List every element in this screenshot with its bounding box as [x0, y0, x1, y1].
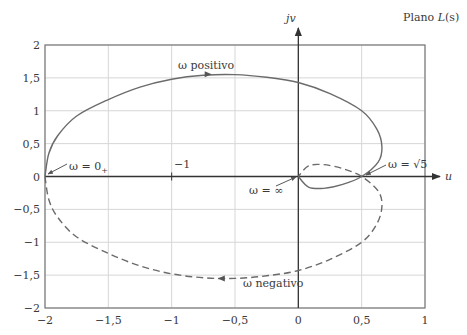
plane-title: Plano L(s) [403, 11, 459, 24]
nyquist-plot: −2−1,5−1−0,500,5121,510,50−0,5−1−1,5−2 P… [0, 0, 467, 335]
direction-arrow-negative [218, 275, 225, 281]
u-axis-label: u [445, 170, 452, 183]
annotations: Plano L(s) jv u ω positivo ω negativo ω … [69, 11, 459, 290]
y-tick-label: 2 [33, 39, 40, 52]
omega-infinity-arrow [276, 177, 296, 186]
y-tick-label: −2 [24, 302, 40, 315]
x-tick-label: −1,5 [95, 314, 122, 327]
y-tick-label: −1 [24, 236, 40, 249]
omega-negative-curve [45, 164, 382, 278]
minus-one-label: −1 [174, 158, 190, 171]
x-tick-label: −2 [37, 314, 53, 327]
x-tick-label: 0 [295, 314, 302, 327]
y-tick-label: 0 [33, 171, 40, 184]
x-tick-label: −0,5 [222, 314, 249, 327]
x-tick-label: 1 [422, 314, 429, 327]
omega-sqrt5-arrow [366, 165, 386, 175]
direction-arrow-positive [205, 71, 212, 77]
y-tick-label: 1,5 [23, 72, 41, 85]
x-tick-label: 0,5 [353, 314, 371, 327]
v-axis-label: jv [283, 12, 296, 25]
omega-sqrt5-label: ω = √5 [388, 158, 427, 171]
y-tick-label: 1 [33, 105, 40, 118]
omega-zero-arrow [48, 164, 67, 174]
y-tick-label: 0,5 [23, 138, 41, 151]
omega-positive-label: ω positivo [178, 59, 234, 72]
omega-zero-label: ω = 0+ [69, 160, 108, 175]
y-tick-label: −0,5 [13, 203, 40, 216]
y-tick-label: −1,5 [13, 269, 40, 282]
x-tick-label: −1 [164, 314, 180, 327]
omega-infinity-label: ω = ∞ [249, 184, 283, 197]
omega-negative-label: ω negativo [243, 277, 304, 290]
tick-labels: −2−1,5−1−0,500,5121,510,50−0,5−1−1,5−2 [13, 39, 428, 327]
